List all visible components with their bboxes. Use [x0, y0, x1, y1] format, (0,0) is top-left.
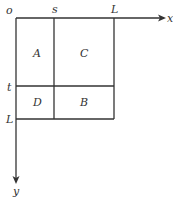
- y-tick-t-label: t: [7, 81, 12, 94]
- x-axis-label: x: [167, 12, 173, 25]
- region-A-label: A: [32, 47, 41, 60]
- region-D-label: D: [32, 96, 42, 109]
- y-tick-L-label: L: [5, 113, 13, 126]
- square-partition-diagram: o x y s L t L A C D B: [0, 0, 173, 197]
- x-tick-L-label: L: [110, 3, 118, 16]
- region-B-label: B: [79, 96, 88, 109]
- region-C-label: C: [80, 47, 89, 60]
- x-tick-s-label: s: [52, 3, 58, 16]
- origin-label: o: [6, 4, 13, 17]
- y-axis-label: y: [12, 185, 20, 197]
